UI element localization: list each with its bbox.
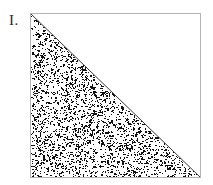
figure-label: I. xyxy=(9,12,19,29)
triangle-stipple-svg xyxy=(31,14,200,177)
figure-panel: I. xyxy=(0,0,213,185)
figure-square-frame xyxy=(30,13,201,178)
